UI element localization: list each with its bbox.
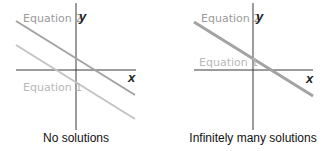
equation-1-label: Equation 1 [199,56,258,69]
diagram-canvas: Equation 2 Equation 1 y x No solutions E… [0,0,326,151]
y-axis-label: y [78,9,87,24]
x-axis-label: x [127,70,136,85]
equation-2-label: Equation 2 [23,12,82,25]
equation-2-label: Equation 2 [201,12,260,25]
x-axis-label: x [305,71,314,86]
equation-1-label: Equation 1 [23,81,82,94]
panel-infinitely-many-solutions: Equation 2 Equation 1 y x Infinitely man… [189,3,316,145]
panel-no-solutions: Equation 2 Equation 1 y x No solutions [16,3,136,145]
caption: Infinitely many solutions [189,131,316,145]
caption: No solutions [43,131,109,145]
y-axis-label: y [255,9,264,24]
